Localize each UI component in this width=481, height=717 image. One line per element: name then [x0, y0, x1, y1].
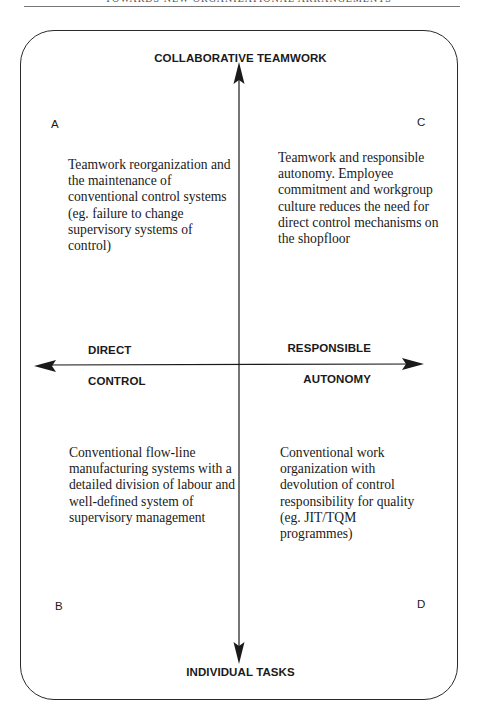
axis-label-responsible: RESPONSIBLE	[287, 342, 371, 354]
axis-label-autonomy: AUTONOMY	[303, 373, 371, 385]
quadrant-letter-c: C	[417, 116, 425, 128]
vertical-axis	[234, 62, 245, 664]
quadrant-text-d: Conventional work organization with devo…	[280, 445, 430, 542]
axes	[0, 0, 481, 717]
axis-title-top: COLLABORATIVE TEAMWORK	[0, 52, 481, 64]
quadrant-letter-b: B	[55, 600, 63, 612]
axis-label-direct: DIRECT	[88, 344, 131, 356]
quadrant-text-c: Teamwork and responsible autonomy. Emplo…	[278, 150, 458, 247]
axis-title-bottom: INDIVIDUAL TASKS	[0, 666, 481, 678]
quadrant-text-a: Teamwork reorganization and the maintena…	[68, 157, 238, 254]
quadrant-letter-a: A	[51, 118, 59, 130]
quadrant-text-b: Conventional flow-line manufacturing sys…	[69, 445, 239, 526]
arrow-left-icon	[34, 360, 56, 372]
quadrant-letter-d: D	[417, 598, 425, 610]
axis-label-control: CONTROL	[88, 375, 146, 387]
horizontal-axis	[34, 358, 424, 372]
